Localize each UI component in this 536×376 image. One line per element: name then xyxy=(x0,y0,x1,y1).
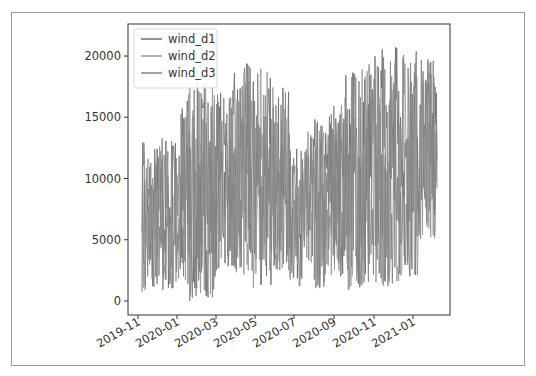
legend-label-wind-d3: wind_d3 xyxy=(168,66,216,80)
x-tick-label: 2020-11 xyxy=(330,314,379,350)
line-chart: 05000100001500020000 2019-112020-012020-… xyxy=(0,0,536,376)
x-tick-label: 2020-07 xyxy=(250,314,299,350)
x-tick-label: 2020-01 xyxy=(133,314,182,350)
legend: wind_d1 wind_d2 wind_d3 xyxy=(134,29,217,88)
y-axis: 05000100001500020000 xyxy=(84,49,128,308)
x-tick-label: 2020-05 xyxy=(211,314,260,350)
y-tick-label: 5000 xyxy=(92,233,121,247)
y-tick-label: 10000 xyxy=(84,172,121,186)
x-tick-label: 2019-11 xyxy=(94,314,143,350)
legend-label-wind-d2: wind_d2 xyxy=(168,49,216,63)
y-tick-label: 20000 xyxy=(84,49,121,63)
y-tick-label: 0 xyxy=(114,294,121,308)
x-axis: 2019-112020-012020-032020-052020-072020-… xyxy=(94,314,418,350)
y-tick-label: 15000 xyxy=(84,110,121,124)
x-tick-label: 2021-01 xyxy=(369,314,418,350)
legend-label-wind-d1: wind_d1 xyxy=(168,32,216,46)
x-tick-label: 2020-03 xyxy=(172,314,221,350)
x-tick-label: 2020-09 xyxy=(290,314,339,350)
